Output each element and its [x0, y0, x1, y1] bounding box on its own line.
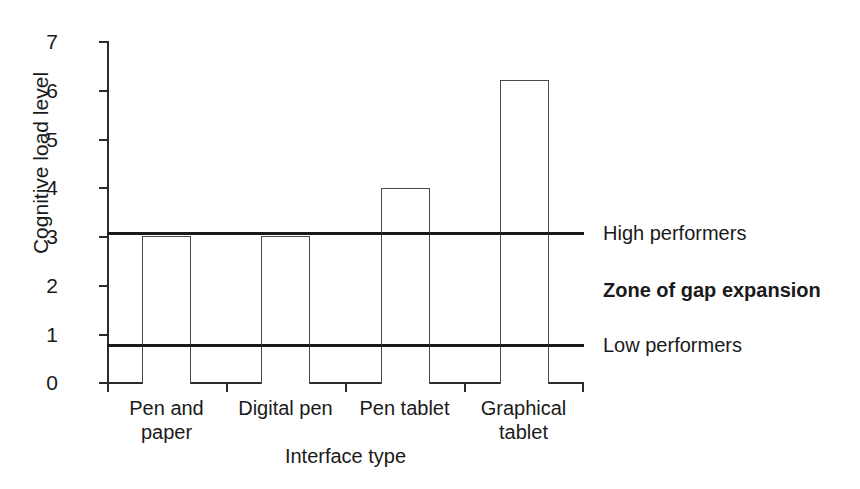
label-zone-of-gap-expansion: Zone of gap expansion [603, 280, 821, 300]
x-axis-title: Interface type [108, 444, 583, 468]
reference-line-high-performers [107, 232, 584, 235]
x-category-label-1-line1: Digital pen [226, 396, 345, 420]
y-tick-4 [99, 187, 108, 189]
x-category-label-1: Digital pen [226, 396, 345, 420]
x-tick-1 [226, 383, 228, 392]
y-axis-line [107, 41, 109, 384]
x-category-label-2: Pen tablet [345, 396, 464, 420]
x-tick-3 [464, 383, 466, 392]
bar-pen-and-paper [142, 236, 191, 384]
x-category-label-3-line1: Graphical [464, 396, 583, 420]
x-category-label-2-line1: Pen tablet [345, 396, 464, 420]
x-tick-0 [107, 383, 109, 392]
bar-chart-figure: 7 6 5 4 3 2 1 0 Cognitive load level Pen… [0, 0, 860, 489]
bar-digital-pen [261, 236, 310, 384]
y-tick-label-1: 1 [32, 324, 58, 345]
y-tick-2 [99, 285, 108, 287]
x-category-label-0: Pen and paper [107, 396, 226, 444]
x-tick-4 [582, 383, 584, 392]
bar-pen-tablet [381, 188, 430, 384]
y-tick-3 [99, 236, 108, 238]
y-tick-label-2: 2 [32, 275, 58, 296]
y-tick-7 [99, 41, 108, 43]
label-high-performers: High performers [603, 223, 746, 243]
x-category-label-0-line1: Pen and [107, 396, 226, 420]
y-tick-5 [99, 139, 108, 141]
y-tick-label-0: 0 [32, 372, 58, 393]
y-tick-1 [99, 334, 108, 336]
x-category-label-3: Graphical tablet [464, 396, 583, 444]
x-category-label-0-line2: paper [107, 420, 226, 444]
reference-line-low-performers [107, 344, 584, 347]
y-axis-title: Cognitive load level [30, 48, 52, 278]
x-category-label-3-line2: tablet [464, 420, 583, 444]
x-tick-2 [345, 383, 347, 392]
label-low-performers: Low performers [603, 335, 742, 355]
y-tick-6 [99, 90, 108, 92]
